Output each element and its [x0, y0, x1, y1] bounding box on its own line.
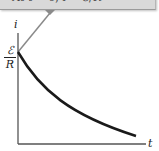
- y-tick-numerator: ℰ: [7, 44, 14, 57]
- y-tick-emf-over-r: ℰ R: [3, 45, 17, 70]
- y-tick-denominator: R: [6, 58, 14, 71]
- decay-curve: [18, 52, 136, 136]
- chart-canvas: [0, 0, 159, 151]
- callout-leader-line: [18, 13, 50, 52]
- callout-pointer-icon: [45, 10, 55, 15]
- x-axis-label: t: [148, 137, 152, 150]
- y-axis-label: i: [14, 18, 18, 31]
